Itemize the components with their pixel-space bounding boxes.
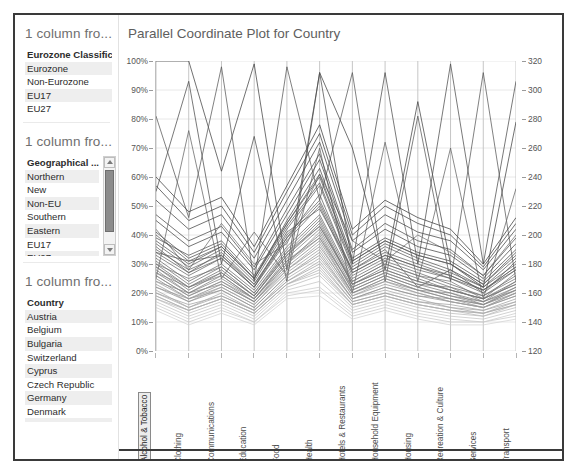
y-right-tick: 160 — [522, 288, 542, 298]
visualization-widget: 1 column fro... Eurozone Classificatio E… — [13, 13, 564, 461]
y-axis-right: 120140160180200220240260280300320 — [522, 61, 556, 351]
filter-field-name: Eurozone Classificatio — [25, 48, 112, 62]
y-right-tick: 320 — [522, 56, 542, 66]
list-item[interactable]: Denmark — [25, 405, 112, 419]
triangle-down-icon[interactable] — [104, 244, 115, 255]
y-right-tick: 300 — [522, 85, 542, 95]
x-axis-label[interactable]: Clothing — [173, 431, 184, 459]
y-left-tick: 80% — [131, 114, 153, 124]
list-item[interactable]: Germany — [25, 391, 112, 405]
filter-card-geographical: 1 column fro... Geographical ... Norther… — [15, 123, 118, 263]
x-tick-mark — [221, 353, 222, 358]
y-right-tick: 180 — [522, 259, 542, 269]
x-axis-label[interactable]: Recreation & Culture — [435, 385, 446, 459]
y-right-tick: 280 — [522, 114, 542, 124]
list-item[interactable]: Austria — [25, 310, 112, 324]
filter-sidebar: 1 column fro... Eurozone Classificatio E… — [15, 15, 119, 459]
x-axis-labels: Alcohol & TobaccoClothingCommunicationsE… — [155, 353, 516, 459]
y-left-tick: 70% — [131, 143, 153, 153]
y-right-tick: 240 — [522, 172, 542, 182]
list-item[interactable]: EU27 — [25, 102, 112, 116]
y-right-tick: 220 — [522, 201, 542, 211]
filter-list-eurozone[interactable]: Eurozone Classificatio Eurozone Non-Euro… — [25, 48, 112, 116]
x-axis-label[interactable]: Services — [468, 430, 479, 459]
vertical-scrollbar[interactable] — [103, 156, 116, 256]
list-item[interactable]: Belgium — [25, 323, 112, 337]
list-item[interactable]: Cyprus — [25, 364, 112, 378]
list-item[interactable]: Non-Eurozone — [25, 75, 112, 89]
filter-card-eurozone: 1 column fro... Eurozone Classificatio E… — [15, 15, 118, 123]
screenshot-root: 1 column fro... Eurozone Classificatio E… — [0, 0, 580, 474]
y-right-tick: 200 — [522, 230, 542, 240]
filter-title: 1 column fro... — [15, 15, 118, 48]
x-tick-mark — [483, 353, 484, 358]
y-left-tick: 0% — [136, 346, 153, 356]
filter-field-name: Country — [25, 296, 112, 310]
scrollbar-thumb[interactable] — [105, 170, 114, 232]
y-right-tick: 260 — [522, 143, 542, 153]
x-tick-mark — [188, 353, 189, 358]
x-tick-mark — [319, 353, 320, 358]
x-tick-mark — [286, 353, 287, 358]
list-item[interactable]: EU27 — [25, 251, 99, 256]
y-left-tick: 20% — [131, 288, 153, 298]
list-item[interactable]: Northern — [25, 170, 99, 184]
y-axis-left: 0%10%20%30%40%50%60%70%80%90%100% — [119, 61, 153, 351]
list-item[interactable]: Southern — [25, 210, 99, 224]
y-left-tick: 10% — [131, 317, 153, 327]
filter-card-country: 1 column fro... Country Austria Belgium … — [15, 263, 118, 422]
plot-area[interactable] — [155, 61, 516, 351]
x-axis-label[interactable]: Household Equipment — [370, 380, 381, 459]
list-item[interactable]: EU27 — [25, 418, 112, 422]
list-item[interactable]: Eastern — [25, 224, 99, 238]
x-tick-mark — [352, 353, 353, 358]
list-item[interactable]: Bulgaria — [25, 337, 112, 351]
list-item[interactable]: EU17 — [25, 238, 99, 252]
list-item[interactable]: New — [25, 183, 99, 197]
y-left-tick: 90% — [131, 85, 153, 95]
series-line[interactable] — [156, 125, 516, 264]
x-tick-mark — [516, 353, 517, 358]
list-item[interactable]: Switzerland — [25, 351, 112, 365]
filter-field-name: Geographical ... — [25, 156, 99, 170]
x-tick-mark — [253, 353, 254, 358]
series-line[interactable] — [156, 131, 516, 299]
x-axis-label[interactable]: Hotels & Restaurants — [337, 384, 348, 459]
bottom-divider — [119, 449, 562, 451]
y-left-tick: 50% — [131, 201, 153, 211]
x-tick-mark — [155, 353, 156, 358]
filter-list-geographical[interactable]: Geographical ... Northern New Non-EU Sou… — [25, 156, 99, 256]
y-left-tick: 100% — [127, 56, 153, 66]
x-axis-label[interactable]: Transport — [501, 426, 512, 459]
filter-title: 1 column fro... — [15, 123, 118, 156]
chart-panel: Parallel Coordinate Plot for Country 0%1… — [119, 15, 562, 459]
list-item[interactable]: Czech Republic — [25, 378, 112, 392]
y-left-tick: 60% — [131, 172, 153, 182]
list-item[interactable]: Eurozone — [25, 62, 112, 76]
filter-title: 1 column fro... — [15, 263, 118, 296]
x-axis-label[interactable]: Education — [238, 425, 249, 459]
parallel-coordinates-svg — [156, 61, 516, 351]
triangle-up-icon[interactable] — [104, 157, 115, 168]
y-right-tick: 120 — [522, 346, 542, 356]
series-line[interactable] — [156, 218, 516, 296]
list-item[interactable]: Non-EU — [25, 197, 99, 211]
plot-wrapper: 0%10%20%30%40%50%60%70%80%90%100% 120140… — [119, 51, 562, 459]
y-left-tick: 30% — [131, 259, 153, 269]
y-left-tick: 40% — [131, 230, 153, 240]
x-tick-mark — [418, 353, 419, 358]
filter-list-country[interactable]: Country Austria Belgium Bulgaria Switzer… — [25, 296, 112, 422]
list-item[interactable]: EU17 — [25, 89, 112, 103]
chart-title: Parallel Coordinate Plot for Country — [128, 26, 340, 41]
x-tick-mark — [450, 353, 451, 358]
x-axis-label[interactable]: Housing — [403, 431, 414, 459]
y-right-tick: 140 — [522, 317, 542, 327]
x-tick-mark — [385, 353, 386, 358]
